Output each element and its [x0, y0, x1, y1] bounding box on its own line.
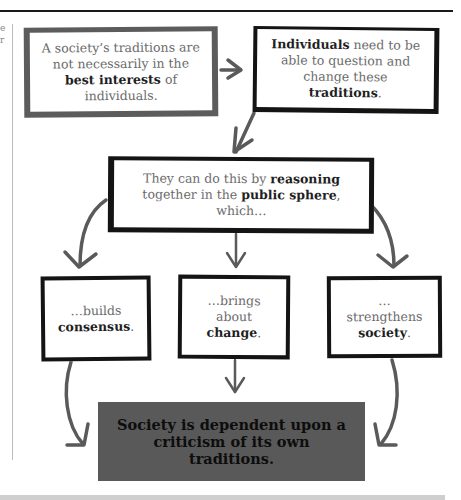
margin-text-fragment: e r: [0, 22, 8, 46]
bold-text-segment: traditions: [309, 85, 378, 101]
arrow-icon: [226, 360, 244, 392]
curved-arrow-icon: [375, 360, 397, 445]
text-segment: .: [130, 318, 134, 333]
bold-text-segment: change: [207, 325, 258, 340]
box-text: A society’s traditions are not necessari…: [30, 35, 212, 108]
bold-text-segment: public sphere: [241, 187, 336, 202]
text-segment: A society’s traditions are not necessari…: [42, 39, 200, 71]
bold-text-segment: best interests: [65, 71, 161, 87]
text-segment: …brings about: [208, 293, 261, 324]
page-bottom-band: [0, 495, 445, 500]
conclusion-box: Society is dependent upon a criticism of…: [98, 402, 365, 481]
bold-text-segment: society: [358, 325, 407, 340]
bold-text-segment: consensus: [58, 318, 130, 334]
curved-arrow-icon: [371, 205, 407, 267]
text-segment: .: [257, 325, 261, 340]
text-segment: .: [378, 85, 382, 100]
box-text: …builds consensus.: [48, 298, 145, 339]
box-reasoning-public-sphere: They can do this by reasoning together i…: [108, 156, 374, 233]
curved-arrow-icon: [66, 362, 88, 445]
conclusion-text: Society is dependent upon a criticism of…: [98, 416, 365, 467]
box-text: They can do this by reasoning together i…: [114, 166, 369, 223]
bold-text-segment: reasoning: [270, 171, 340, 186]
box-text: …brings about change.: [182, 289, 286, 346]
box-traditions-not-best-interests: A society’s traditions are not necessari…: [24, 26, 219, 117]
box-individuals-question-traditions: Individuals need to be able to question …: [253, 26, 440, 114]
box-text: Individuals need to be able to question …: [257, 32, 435, 106]
text-segment: together in the: [142, 186, 241, 202]
top-rule: [0, 10, 453, 12]
text-segment: …builds: [70, 302, 121, 318]
text-segment: .: [407, 325, 411, 340]
box-builds-consensus: …builds consensus.: [41, 275, 152, 361]
text-segment: They can do this by: [143, 170, 270, 186]
box-text: …strengthens society.: [331, 289, 438, 346]
curved-arrow-icon: [65, 200, 106, 267]
box-brings-about-change: …brings about change.: [178, 275, 291, 360]
box-strengthens-society: …strengthens society.: [327, 276, 442, 359]
arrow-icon: [221, 60, 241, 78]
text-segment: …strengthens: [347, 293, 423, 324]
arrow-icon: [234, 113, 254, 152]
bold-text-segment: Individuals: [271, 36, 349, 52]
arrow-icon: [227, 234, 245, 267]
margin-rule: [12, 24, 13, 460]
